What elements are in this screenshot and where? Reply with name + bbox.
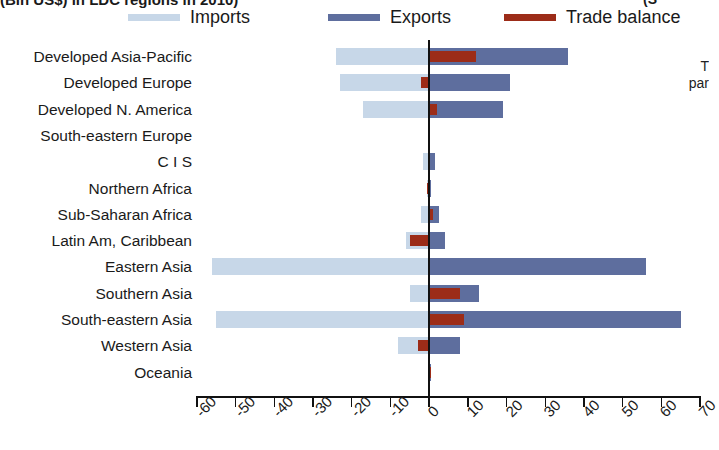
bar-trade-balance (410, 235, 429, 246)
bar-trade-balance (429, 288, 460, 299)
zero-axis-line (428, 40, 430, 396)
legend-swatch-icon (504, 14, 556, 21)
legend-label: Exports (390, 6, 451, 28)
bar-exports (429, 232, 444, 249)
x-axis: -60-50-40-30-20-10010203040506070 (0, 396, 709, 450)
legend-item-imports: Imports (128, 6, 250, 28)
x-axis-tick-label: 0 (424, 402, 442, 420)
legend-item-exports: Exports (328, 6, 451, 28)
category-label: Developed Asia-Pacific (0, 49, 192, 64)
category-label: Eastern Asia (0, 259, 192, 274)
bar-exports (429, 74, 510, 91)
bar-imports (410, 285, 429, 302)
bar-imports (216, 311, 429, 328)
category-label: South-eastern Asia (0, 312, 192, 327)
category-label: Sub-Saharan Africa (0, 207, 192, 222)
bar-exports (429, 337, 460, 354)
category-label: Developed Europe (0, 75, 192, 90)
bar-exports (429, 258, 646, 275)
bar-imports (340, 74, 429, 91)
bar-trade-balance (429, 104, 437, 115)
bar-trade-balance (429, 51, 475, 62)
bar-trade-balance (429, 314, 464, 325)
bar-imports (363, 101, 429, 118)
category-label: Latin Am, Caribbean (0, 233, 192, 248)
bar-exports (429, 311, 681, 328)
category-label: C I S (0, 154, 192, 169)
category-label: Northern Africa (0, 181, 192, 196)
legend-item-trade-balance: Trade balance (504, 6, 680, 28)
bar-exports (429, 101, 503, 118)
category-label: Southern Asia (0, 286, 192, 301)
chart-legend: ImportsExportsTrade balance (128, 6, 628, 34)
legend-label: Trade balance (566, 6, 680, 28)
bar-imports (212, 258, 429, 275)
plot-area: Developed Asia-PacificDeveloped EuropeDe… (0, 40, 709, 400)
legend-label: Imports (190, 6, 250, 28)
category-label: South-eastern Europe (0, 128, 192, 143)
category-label: Western Asia (0, 338, 192, 353)
category-label: Oceania (0, 365, 192, 380)
bar-imports (336, 48, 429, 65)
x-axis-line (197, 396, 700, 398)
legend-swatch-icon (328, 14, 380, 21)
category-label: Developed N. America (0, 102, 192, 117)
legend-swatch-icon (128, 14, 180, 21)
